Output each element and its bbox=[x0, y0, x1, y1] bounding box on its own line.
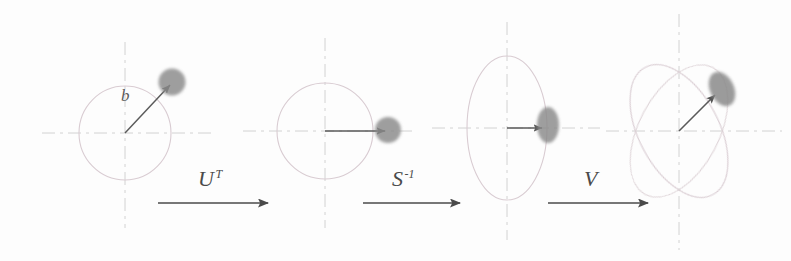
operation-label-v: V bbox=[584, 166, 599, 192]
op-base-u: U bbox=[198, 166, 214, 191]
figure-canvas bbox=[0, 0, 791, 261]
panel-3-axes bbox=[432, 22, 600, 240]
panel-3-uncertainty-blob bbox=[537, 107, 559, 143]
panel-4-group bbox=[606, 14, 782, 250]
operation-label-s-inverse: S-1 bbox=[392, 166, 415, 192]
op-superscript-u: T bbox=[215, 167, 222, 181]
vector-label-b: b bbox=[121, 86, 130, 106]
panel-4-vector bbox=[679, 95, 715, 131]
panel-1-group bbox=[42, 42, 212, 228]
op-superscript-s: -1 bbox=[405, 167, 415, 181]
operation-label-u-transpose: UT bbox=[198, 166, 222, 192]
panel-3-group bbox=[432, 22, 600, 240]
panel-2-group bbox=[243, 38, 415, 228]
svd-transformation-figure: b UT S-1 V bbox=[0, 0, 791, 261]
op-base-v: V bbox=[584, 166, 598, 191]
panel-1-axes bbox=[42, 42, 212, 228]
panel-4-axes bbox=[606, 14, 782, 250]
op-base-s: S bbox=[392, 166, 404, 191]
panel-2-uncertainty-blob bbox=[375, 117, 401, 143]
panel-1-uncertainty-blob bbox=[159, 69, 186, 96]
